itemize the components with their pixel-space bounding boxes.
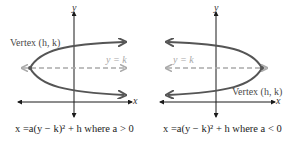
left-parabola-lower (30, 68, 124, 95)
left-vertex-label: Vertex (h, k) (10, 38, 60, 48)
left-axis-of-symmetry-label: y = k (106, 55, 127, 65)
right-x-axis-label: x (276, 96, 280, 106)
left-y-axis-label: y (72, 3, 76, 13)
right-equation-caption: x =a(y − k)² + h where a < 0 (163, 124, 282, 135)
left-x-axis-label: x (133, 96, 137, 106)
right-vertex-point (260, 66, 264, 70)
left-equation-caption: x =a(y − k)² + h where a > 0 (15, 124, 134, 135)
right-axis-of-symmetry-label: y = k (173, 55, 194, 65)
parabola-diagrams (0, 0, 298, 142)
left-vertex-point (28, 66, 32, 70)
right-y-axis-label: y (214, 3, 218, 13)
right-vertex-label: Vertex (h, k) (232, 87, 282, 97)
